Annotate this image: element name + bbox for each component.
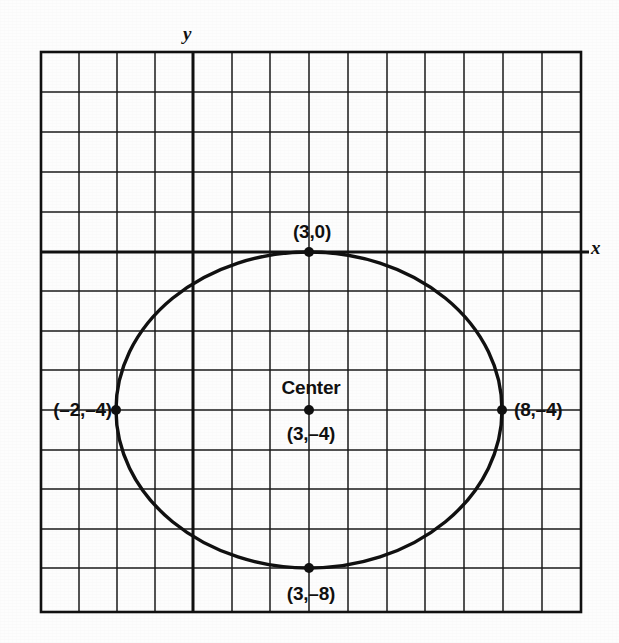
y-axis-label: y — [183, 24, 191, 43]
point-left — [111, 405, 121, 415]
point-bottom — [304, 563, 314, 573]
point-label-top: (3,0) — [293, 222, 331, 241]
point-label-right: (8,–4) — [514, 400, 562, 419]
grid-background — [41, 52, 581, 612]
point-label-left: (–2,–4) — [53, 400, 112, 419]
center-text-label: Center — [282, 378, 341, 397]
x-axis-label: x — [591, 238, 601, 257]
point-center — [304, 405, 314, 415]
graph-canvas — [0, 0, 619, 643]
point-top — [304, 247, 314, 257]
point-label-bottom: (3,–8) — [287, 584, 335, 603]
ellipse-graph-figure: y x (3,0) Center (3,–4) (–2,–4) (8,–4) (… — [0, 0, 619, 643]
point-right — [497, 405, 507, 415]
point-label-center: (3,–4) — [287, 424, 335, 443]
